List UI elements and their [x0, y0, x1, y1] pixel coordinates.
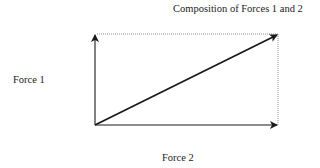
force-diagram [0, 0, 320, 168]
resultant-arrow [95, 35, 277, 125]
